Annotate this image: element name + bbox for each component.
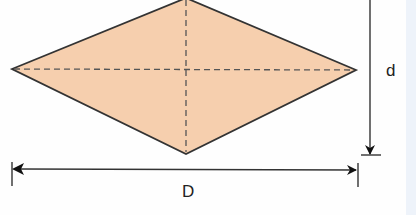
D-dimension-line: [20, 169, 356, 170]
label-d: d: [386, 61, 395, 80]
diagram-canvas: D d: [0, 0, 416, 215]
rhombus-shape: [12, 0, 356, 154]
rhombus-diagram: D d: [0, 0, 416, 215]
label-D: D: [182, 182, 194, 201]
